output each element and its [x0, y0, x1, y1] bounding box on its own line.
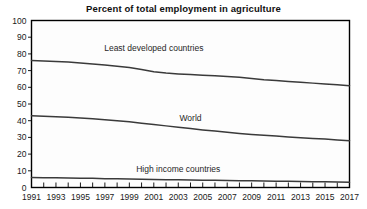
y-tick-label: 30	[17, 132, 27, 142]
chart-container: Percent of total employment in agricultu…	[0, 0, 367, 209]
series-label: High income countries	[136, 164, 220, 174]
x-tick-label: 1997	[95, 192, 114, 202]
y-tick-label: 50	[17, 99, 27, 109]
x-tick-label: 1999	[120, 192, 139, 202]
y-tick-label: 0	[22, 183, 27, 193]
y-tick-label: 80	[17, 49, 27, 59]
y-tick-label: 70	[17, 66, 27, 76]
x-tick-label: 2017	[340, 192, 359, 202]
y-tick-label: 90	[17, 32, 27, 42]
x-tick-label: 2007	[218, 192, 237, 202]
x-axis-tick-labels: 1991199319951997199920012003200520072009…	[22, 192, 359, 202]
y-tick-label: 10	[17, 166, 27, 176]
chart-plot: 0102030405060708090100 Least developed c…	[0, 0, 367, 209]
x-tick-label: 2015	[316, 192, 335, 202]
y-tick-label: 100	[12, 16, 26, 26]
y-tick-label: 60	[17, 82, 27, 92]
series-label: Least developed countries	[104, 43, 203, 53]
y-tick-label: 40	[17, 116, 27, 126]
x-tick-label: 2013	[291, 192, 310, 202]
x-tick-label: 1995	[71, 192, 90, 202]
y-axis-tick-labels: 0102030405060708090100	[12, 16, 26, 193]
x-tick-label: 2011	[267, 192, 286, 202]
x-tick-label: 1993	[47, 192, 66, 202]
x-tick-label: 1991	[22, 192, 41, 202]
x-tick-label: 2005	[193, 192, 212, 202]
x-tick-label: 2009	[242, 192, 261, 202]
x-tick-label: 2003	[169, 192, 188, 202]
series-label: World	[179, 113, 201, 123]
x-tick-label: 2001	[144, 192, 163, 202]
y-tick-label: 20	[17, 149, 27, 159]
